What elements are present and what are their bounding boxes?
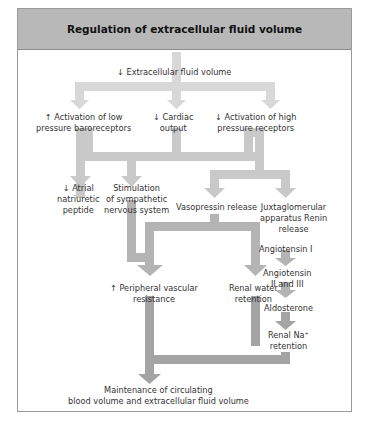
node-peripheral-resistance: ↑ Peripheral vascular resistance — [110, 283, 198, 305]
node-renal-water: Renal water retention — [229, 283, 278, 305]
node-angiotensin-1: Angiotensin I — [259, 244, 312, 255]
node-low-baroreceptors: ↑ Activation of low pressure barorecepto… — [36, 112, 131, 134]
node-anp: ↓ Atrial natriuretic peptide — [57, 183, 99, 216]
node-outcome: Maintenance of circulating blood volume … — [68, 385, 249, 407]
node-high-receptors: ↓ Activation of high pressure receptors — [215, 112, 296, 134]
node-cardiac-output: ↓ Cardiac output — [153, 112, 193, 134]
node-sympathetic: Stimulation of sympathetic nervous syste… — [104, 183, 169, 216]
node-jga-renin: Juxtaglomerular apparatus Renin release — [260, 202, 327, 235]
node-ecf: ↓ Extracellular fluid volume — [117, 67, 231, 78]
node-vasopressin: Vasopressin release — [176, 202, 257, 213]
node-renal-na: Renal Na⁺ retention — [268, 330, 309, 352]
arrows-level-1 — [70, 52, 280, 109]
